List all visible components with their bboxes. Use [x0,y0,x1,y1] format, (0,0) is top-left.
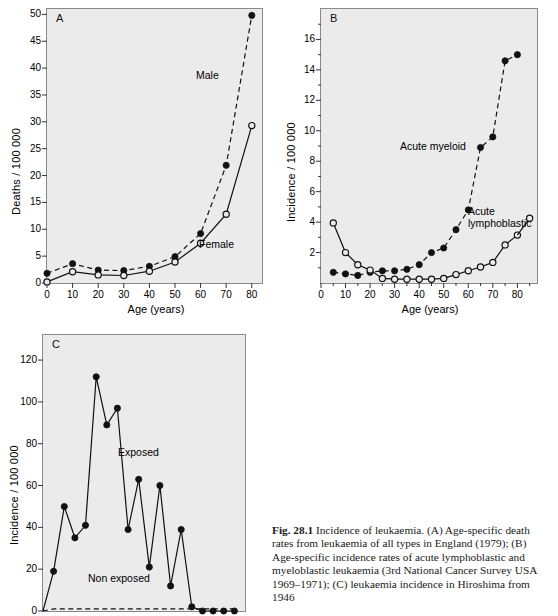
panel-a-ytick-50: 50 [3,8,41,19]
panel-a-ytick-35: 35 [3,89,41,100]
panel-a-ytick-45: 45 [3,35,41,46]
panel-a-series-label-female: Female [199,239,234,251]
panel-b-ytick-16: 16 [277,33,315,44]
panel-a-xtick-0: 0 [33,289,61,300]
panel-c-ytick-80: 80 [0,438,37,449]
panel-b-ytick-8: 8 [277,155,315,166]
panel-a-xtick-70: 70 [212,289,240,300]
panel-a-xtick-10: 10 [59,289,87,300]
panel-b-xtick-80: 80 [503,289,531,300]
panel-c-ytick-100: 100 [0,396,37,407]
panel-c-ytick-20: 20 [0,563,37,574]
panel-a-ytick-5: 5 [3,250,41,261]
panel-a-xtick-50: 50 [161,289,189,300]
panel-c-ytick-60: 60 [0,480,37,491]
figure-caption: Fig. 28.1 Incidence of leukaemia. (A) Ag… [272,524,544,604]
panel-a-xtick-80: 80 [238,289,266,300]
panel-b-ytick-14: 14 [277,64,315,75]
panel-a-xtick-20: 20 [84,289,112,300]
panel-a-ytick-40: 40 [3,62,41,73]
panel-a-ytick-0: 0 [3,277,41,288]
panel-b-ytick-4: 4 [277,216,315,227]
figure-caption-label: Fig. 28.1 [272,524,313,536]
panel-a-xtick-40: 40 [135,289,163,300]
panel-c-ytick-120: 120 [0,354,37,365]
panel-b-ytick-2: 2 [277,247,315,258]
panel-a-xtick-60: 60 [187,289,215,300]
panel-b-series-label-acute-myeloid: Acute myeloid [400,141,466,153]
panel-c-series-label-non-exposed: Non exposed [88,573,150,585]
panel-a-ytick-15: 15 [3,196,41,207]
panel-a-ytick-25: 25 [3,143,41,154]
panel-c-ytick-0: 0 [0,605,37,616]
panel-a-ytick-20: 20 [3,170,41,181]
panel-b-series-label-acute-lymphoblastic: Acutelymphoblastic [468,206,532,230]
panel-c-ytick-40: 40 [0,521,37,532]
panel-b-ytick-10: 10 [277,125,315,136]
panel-a-ytick-30: 30 [3,116,41,127]
panel-b-ytick-12: 12 [277,94,315,105]
panel-a-ytick-10: 10 [3,223,41,234]
panel-b-ytick-6: 6 [277,186,315,197]
panel-a-xtick-30: 30 [110,289,138,300]
panel-c-series-label-exposed: Exposed [118,447,159,459]
panel-a-series-label-male: Male [196,70,219,82]
